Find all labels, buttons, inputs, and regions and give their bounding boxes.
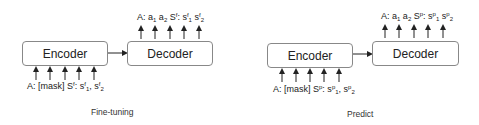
decoder-box: Decoder xyxy=(127,41,213,66)
decoder-output-arrows-right xyxy=(385,27,443,38)
encoder-box: Encoder xyxy=(267,43,353,68)
decoder-output-arrows-left xyxy=(141,28,199,39)
encoder-input-tokens: A: [mask] Sf: sf1, sf2 xyxy=(27,81,104,92)
encoder-input-arrows-right xyxy=(282,71,339,82)
encoder-box: Encoder xyxy=(22,41,108,66)
decoder-output-tokens: A: a1 a2 Sf: sf1 sf2 xyxy=(137,12,204,23)
caption-fine-tuning: Fine-tuning xyxy=(91,107,134,117)
encoder-input-arrows-left xyxy=(36,69,94,80)
decoder-box: Decoder xyxy=(372,41,459,66)
encoder-input-tokens: A: [mask] Sp: sp1, sp2 xyxy=(273,84,355,95)
caption-predict: Predict xyxy=(347,109,373,119)
decoder-output-tokens: A: a1 a2 Sp: sp1 sp2 xyxy=(381,11,453,22)
